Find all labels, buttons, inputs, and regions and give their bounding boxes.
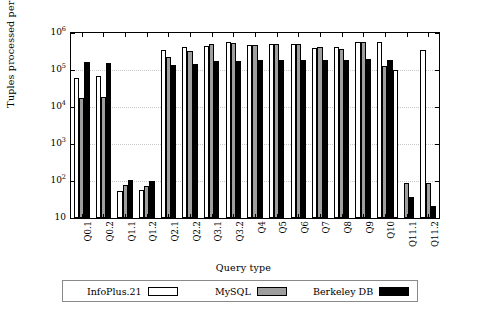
- x-axis-tick: [342, 33, 343, 37]
- x-axis-tick: [168, 214, 169, 218]
- x-axis-tick-label: Q7: [322, 221, 331, 233]
- bar: [431, 206, 436, 218]
- bar: [301, 60, 306, 218]
- x-axis-title: Query type: [0, 262, 487, 273]
- x-axis-tick: [298, 33, 299, 37]
- x-axis-tick-label: Q1.2: [149, 221, 158, 242]
- x-axis-tick-label: Q2.2: [193, 221, 202, 242]
- plot-area: [70, 32, 440, 219]
- x-axis-tick-label: Q10: [387, 221, 396, 239]
- x-axis-tick-label: Q0.2: [106, 221, 115, 242]
- y-axis-tick-label: 104: [26, 102, 66, 111]
- x-axis-tick: [147, 33, 148, 37]
- y-axis-tick-label: 102: [26, 176, 66, 185]
- bar: [393, 70, 398, 218]
- bar: [193, 64, 198, 218]
- bar: [128, 180, 133, 218]
- bar: [344, 60, 349, 218]
- x-axis-tick: [103, 33, 104, 37]
- legend-label: InfoPlus.21: [87, 286, 142, 297]
- bar: [258, 60, 263, 218]
- x-axis-tick-label: Q3.2: [236, 221, 245, 242]
- x-axis-tick-label: Q11.1: [409, 221, 418, 247]
- x-axis-tick: [407, 214, 408, 218]
- bar-group: [399, 33, 415, 218]
- bar-group: [182, 33, 198, 218]
- x-axis-tick: [298, 214, 299, 218]
- x-axis-tick: [103, 214, 104, 218]
- bar: [106, 63, 111, 218]
- legend-label: MySQL: [215, 286, 251, 297]
- legend-label: Berkeley DB: [313, 286, 373, 297]
- x-axis-tick: [320, 33, 321, 37]
- x-axis-tick: [428, 33, 429, 37]
- x-axis-tick: [147, 214, 148, 218]
- y-axis-tick-label: 103: [26, 139, 66, 148]
- x-axis-tick-label: Q8: [344, 221, 353, 233]
- x-axis-tick-label: Q4: [258, 221, 267, 233]
- bar: [323, 60, 328, 218]
- bar: [236, 61, 241, 218]
- x-axis-tick: [125, 214, 126, 218]
- bar-group: [269, 33, 285, 218]
- x-axis-tick: [82, 214, 83, 218]
- bar: [171, 65, 176, 218]
- black-bar-swatch: [379, 287, 409, 296]
- bar-group: [334, 33, 350, 218]
- x-axis-tick: [363, 33, 364, 37]
- x-axis-tick-label: Q1.1: [128, 221, 137, 242]
- x-axis-tick: [385, 214, 386, 218]
- chart-legend: InfoPlus.21 MySQL Berkeley DB: [62, 280, 418, 302]
- bar-group: [204, 33, 220, 218]
- x-axis-tick: [212, 214, 213, 218]
- x-axis-tick: [255, 33, 256, 37]
- bar: [214, 61, 219, 218]
- bar-chart-figure: Tuples processed per second 101021031041…: [0, 0, 487, 316]
- bar: [409, 197, 414, 218]
- x-axis-tick: [428, 214, 429, 218]
- x-axis-tick-label: Q5: [279, 221, 288, 233]
- x-axis-tick: [212, 33, 213, 37]
- y-axis-tick-labels: 10102103104105106: [22, 32, 66, 219]
- x-axis-tick: [190, 214, 191, 218]
- bar-group: [312, 33, 328, 218]
- x-axis-tick-label: Q3.1: [214, 221, 223, 242]
- x-axis-tick: [233, 33, 234, 37]
- bar-group: [420, 33, 436, 218]
- x-axis-tick: [277, 33, 278, 37]
- x-axis-tick-label: Q6: [301, 221, 310, 233]
- y-axis-tick-label: 105: [26, 65, 66, 74]
- bar: [366, 59, 371, 218]
- x-axis-tick: [82, 33, 83, 37]
- x-axis-tick: [277, 214, 278, 218]
- bar-group: [247, 33, 263, 218]
- x-axis-tick: [407, 33, 408, 37]
- x-axis-tick: [255, 214, 256, 218]
- bar-group: [117, 33, 133, 218]
- x-axis-tick: [342, 214, 343, 218]
- white-bar-swatch: [148, 287, 178, 296]
- x-axis-tick: [233, 214, 234, 218]
- x-axis-tick: [168, 33, 169, 37]
- x-axis-tick-label: Q11.2: [431, 221, 440, 247]
- y-axis-tick-label: 106: [26, 28, 66, 37]
- bar-group: [139, 33, 155, 218]
- bar-group: [226, 33, 242, 218]
- bar: [279, 60, 284, 218]
- bar: [149, 181, 154, 218]
- bar-group: [291, 33, 307, 218]
- bar: [84, 62, 89, 218]
- legend-entry-berkeleydb: Berkeley DB: [313, 286, 409, 297]
- x-axis-tick-label: Q0.1: [84, 221, 93, 242]
- legend-entry-mysql: MySQL: [215, 286, 287, 297]
- y-axis-tick: [435, 218, 439, 219]
- x-axis-tick-labels: Q0.1Q0.2Q1.1Q1.2Q2.1Q2.2Q3.1Q3.2Q4Q5Q6Q7…: [70, 221, 440, 261]
- legend-entry-infoplus: InfoPlus.21: [87, 286, 178, 297]
- x-axis-tick: [363, 214, 364, 218]
- x-axis-tick: [385, 33, 386, 37]
- bar-group: [355, 33, 371, 218]
- bar-group: [377, 33, 393, 218]
- x-axis-tick: [320, 214, 321, 218]
- x-axis-tick: [125, 33, 126, 37]
- y-axis-tick: [71, 218, 75, 219]
